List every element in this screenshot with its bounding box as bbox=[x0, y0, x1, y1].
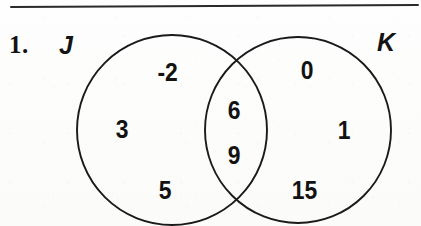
element-15-text: 15 bbox=[291, 175, 316, 206]
element-0: 0 bbox=[284, 55, 330, 85]
worksheet-page: 1. J K -2 3 5 6 9 0 1 15 bbox=[0, 0, 421, 226]
element-9-text: 9 bbox=[228, 140, 241, 171]
set-label-k: K bbox=[377, 30, 395, 55]
element-5: 5 bbox=[142, 175, 188, 205]
element-minus-2-text: -2 bbox=[158, 57, 178, 88]
element-3-text: 3 bbox=[116, 114, 129, 145]
element-6: 6 bbox=[211, 95, 257, 125]
element-minus-2: -2 bbox=[145, 57, 191, 87]
element-0-text: 0 bbox=[301, 55, 314, 86]
set-label-j: J bbox=[59, 33, 73, 58]
element-1-text: 1 bbox=[338, 115, 351, 146]
problem-number-label: 1. bbox=[9, 32, 29, 57]
element-15: 15 bbox=[281, 175, 327, 205]
element-6-text: 6 bbox=[228, 95, 241, 126]
element-5-text: 5 bbox=[159, 175, 172, 206]
horizontal-rule bbox=[11, 5, 418, 7]
element-9: 9 bbox=[211, 140, 257, 170]
element-3: 3 bbox=[99, 114, 145, 144]
element-1: 1 bbox=[321, 115, 367, 145]
